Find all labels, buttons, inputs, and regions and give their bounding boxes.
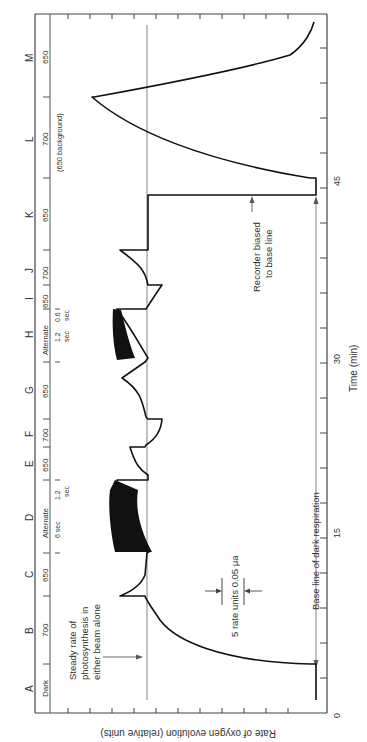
section-B-letter: B <box>24 627 35 634</box>
section-H-letter: H <box>24 331 35 338</box>
section-L-letter: L <box>24 136 35 142</box>
section-D-sub1: 6 sec <box>54 521 61 538</box>
section-H-condition: Alternate <box>41 325 50 355</box>
x-axis-title: Time (min) <box>348 345 359 392</box>
svg-text:Steady rate of: Steady rate of <box>67 620 78 680</box>
section-G-letter: G <box>24 386 35 394</box>
section-I-letter: I <box>24 297 35 300</box>
section-E-letter: E <box>24 460 35 467</box>
time-tick-0: 0 <box>332 713 342 718</box>
oxygen-trace <box>92 22 316 700</box>
steady-rate-annotation: Steady rate of photosynthesis in either … <box>67 604 143 680</box>
section-H-sub1b: sec <box>63 331 70 342</box>
section-J-letter: J <box>24 268 35 273</box>
section-M-letter: M <box>24 54 35 62</box>
section-C-letter: C <box>24 571 35 578</box>
section-B-condition: 700 <box>41 623 50 637</box>
y-axis-title: Rate of oxygen evolution (relative units… <box>100 728 276 739</box>
section-J-condition: 700 <box>41 266 50 280</box>
recorder-arrow-icon <box>250 196 255 203</box>
time-tick-45: 45 <box>332 176 342 186</box>
section-D-sub2a: 1.2 <box>54 490 61 500</box>
section-M-condition: 650 <box>41 50 50 64</box>
scale-arrow-right-icon <box>244 589 250 594</box>
svg-text:Recorder biased: Recorder biased <box>251 222 262 292</box>
section-D-sub2b: sec <box>63 486 70 497</box>
section-D-condition: Alternate <box>41 508 50 538</box>
baseline-arrow-up-icon <box>314 196 319 204</box>
section-L-note: (650 background) <box>55 113 64 172</box>
section-I-condition: 650 <box>41 294 50 308</box>
section-H-sub2b: sec <box>63 310 70 321</box>
svg-text:photosynthesis in: photosynthesis in <box>79 607 90 680</box>
scale-arrow-left-icon <box>216 589 222 594</box>
section-H-sub2a: 0.6 <box>54 312 61 322</box>
svg-text:to base line: to base line <box>263 229 274 278</box>
section-D-letter: D <box>24 514 35 521</box>
scale-bar-annotation: 5 rate units 0.05 μa <box>205 555 262 637</box>
alternate-band-H <box>113 309 135 360</box>
svg-text:either beam alone: either beam alone <box>91 604 102 680</box>
steady-arrow-icon <box>136 655 143 660</box>
section-F-letter: F <box>24 431 35 437</box>
section-L-condition: 700 <box>41 132 50 146</box>
section-A-condition: Dark <box>41 679 50 697</box>
section-E-condition: 650 <box>41 458 50 472</box>
svg-text:5 rate units 0.05 μa: 5 rate units 0.05 μa <box>229 555 240 637</box>
oxygen-evolution-chart: 0 15 30 45 Time (min) Rate of oxygen evo… <box>0 0 367 742</box>
time-tick-30: 30 <box>332 354 342 364</box>
section-C-condition: 650 <box>41 568 50 582</box>
alternate-band-D <box>109 480 152 552</box>
section-K-condition: 650 <box>41 208 50 222</box>
section-K-letter: K <box>24 211 35 218</box>
baseline-label: Base line of dark respiration <box>310 492 321 610</box>
section-H-sub1a: 1.2 <box>54 332 61 342</box>
recorder-annotation: Recorder biased to base line <box>250 196 275 292</box>
section-headers: A Dark B 700 C 650 D Alternate 6 sec 1.2… <box>24 50 70 697</box>
time-tick-15: 15 <box>332 528 342 538</box>
section-F-condition: 700 <box>41 428 50 442</box>
section-A-letter: A <box>24 685 35 692</box>
section-G-condition: 650 <box>41 384 50 398</box>
time-axis-ticks <box>320 48 327 678</box>
